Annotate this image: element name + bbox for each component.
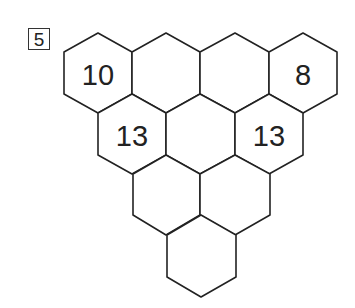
cell-value: 13 (116, 120, 148, 152)
cell-value: 8 (295, 59, 311, 91)
cell-value: 13 (253, 120, 285, 152)
hexagon-pyramid-puzzle: 10 8 13 13 (0, 0, 355, 308)
cell-value: 10 (82, 59, 114, 91)
